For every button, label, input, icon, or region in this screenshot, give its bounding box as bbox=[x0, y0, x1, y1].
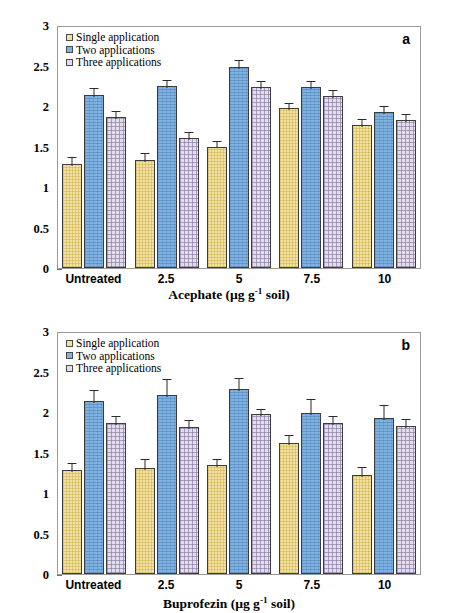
error-bar bbox=[166, 80, 167, 87]
bar[interactable] bbox=[62, 470, 82, 574]
bar-slot bbox=[207, 27, 227, 268]
y-tick-label: 0 bbox=[43, 262, 49, 277]
error-bar bbox=[383, 106, 384, 114]
y-tick-label: 1.5 bbox=[33, 446, 49, 461]
bar[interactable] bbox=[352, 475, 372, 574]
bar-slot bbox=[229, 27, 249, 268]
bar[interactable] bbox=[396, 426, 416, 574]
error-bar bbox=[188, 132, 189, 140]
error-bar-cap bbox=[401, 419, 410, 420]
bar[interactable] bbox=[352, 125, 372, 268]
bar-slot bbox=[396, 27, 416, 268]
bar-slot bbox=[301, 27, 321, 268]
bar-groups-a bbox=[58, 27, 420, 268]
error-bar-cap bbox=[285, 435, 294, 436]
bar-slot bbox=[352, 333, 372, 574]
error-bar-cap bbox=[184, 420, 193, 421]
error-bar bbox=[405, 114, 406, 122]
y-axis-ticks-a: 00.511.522.53 bbox=[0, 26, 57, 269]
bar[interactable] bbox=[229, 389, 249, 574]
bar[interactable] bbox=[251, 414, 271, 574]
error-bar bbox=[405, 419, 406, 428]
error-bar bbox=[144, 459, 145, 470]
error-bar-cap bbox=[257, 81, 266, 82]
x-tick-label: Untreated bbox=[57, 578, 130, 596]
error-bar bbox=[239, 378, 240, 391]
bar[interactable] bbox=[62, 164, 82, 268]
error-bar-cap bbox=[184, 132, 193, 133]
bar[interactable] bbox=[279, 443, 299, 574]
x-tick-label: 7.5 bbox=[275, 578, 348, 596]
error-bar-cap bbox=[162, 379, 171, 380]
bar-slot bbox=[179, 333, 199, 574]
error-bar bbox=[94, 390, 95, 404]
bar[interactable] bbox=[229, 67, 249, 268]
error-bar-cap bbox=[379, 106, 388, 107]
error-bar-cap bbox=[235, 378, 244, 379]
error-bar bbox=[239, 60, 240, 69]
y-tick-mark bbox=[57, 269, 62, 270]
y-tick-label: 0.5 bbox=[33, 527, 49, 542]
y-tick-label: 3 bbox=[43, 325, 49, 340]
y-tick-label: 2 bbox=[43, 100, 49, 115]
y-tick-label: 1 bbox=[43, 487, 49, 502]
bar[interactable] bbox=[396, 120, 416, 268]
bar[interactable] bbox=[135, 160, 155, 268]
error-bar bbox=[261, 409, 262, 416]
y-tick-label: 2 bbox=[43, 406, 49, 421]
error-bar-cap bbox=[401, 114, 410, 115]
bar-slot bbox=[352, 27, 372, 268]
error-bar bbox=[217, 141, 218, 148]
bar[interactable] bbox=[301, 413, 321, 574]
y-tick-label: 2.5 bbox=[33, 365, 49, 380]
bar[interactable] bbox=[106, 423, 126, 574]
error-bar-cap bbox=[213, 141, 222, 142]
error-bar bbox=[361, 119, 362, 126]
error-bar-cap bbox=[235, 60, 244, 61]
error-bar-cap bbox=[329, 416, 338, 417]
bar-slot bbox=[279, 333, 299, 574]
y-tick-label: 0 bbox=[43, 568, 49, 583]
bar-slot bbox=[106, 27, 126, 268]
bar-slot bbox=[135, 333, 155, 574]
panel-b: mg glucose g-1 soil 24 h-1 00.511.522.53… bbox=[0, 306, 458, 612]
bar[interactable] bbox=[84, 401, 104, 574]
bar[interactable] bbox=[207, 465, 227, 574]
bar[interactable] bbox=[207, 147, 227, 269]
error-bar bbox=[361, 467, 362, 478]
bar[interactable] bbox=[179, 427, 199, 574]
figure-container: mg glucose g-1 soil 24 h-1 00.511.522.53… bbox=[0, 0, 458, 613]
bar-slot bbox=[374, 27, 394, 268]
bar[interactable] bbox=[374, 418, 394, 574]
error-bar-cap bbox=[140, 459, 149, 460]
x-axis-title-b: Buprofezin (µg g-1 soil) bbox=[0, 596, 458, 612]
bar[interactable] bbox=[251, 87, 271, 268]
plot-area-a: Single applicationTwo applicationsThree … bbox=[57, 26, 421, 269]
plot-area-b: Single applicationTwo applicationsThree … bbox=[57, 332, 421, 575]
bar[interactable] bbox=[135, 468, 155, 574]
error-bar-cap bbox=[285, 103, 294, 104]
bar[interactable] bbox=[323, 96, 343, 268]
bar[interactable] bbox=[374, 112, 394, 268]
bar[interactable] bbox=[157, 86, 177, 268]
error-bar bbox=[116, 416, 117, 424]
bar[interactable] bbox=[179, 138, 199, 268]
y-tick-label: 0.5 bbox=[33, 221, 49, 236]
error-bar bbox=[333, 416, 334, 425]
error-bar-cap bbox=[162, 80, 171, 81]
bar[interactable] bbox=[301, 87, 321, 268]
error-bar-cap bbox=[329, 90, 338, 91]
y-tick-label: 1 bbox=[43, 181, 49, 196]
bar[interactable] bbox=[84, 95, 104, 268]
bar[interactable] bbox=[106, 117, 126, 268]
panel-a: mg glucose g-1 soil 24 h-1 00.511.522.53… bbox=[0, 0, 458, 306]
bar-slot bbox=[157, 27, 177, 268]
bar[interactable] bbox=[157, 395, 177, 574]
error-bar bbox=[188, 420, 189, 429]
bar[interactable] bbox=[279, 108, 299, 268]
bar-group bbox=[275, 27, 347, 268]
error-bar-cap bbox=[307, 399, 316, 400]
bar[interactable] bbox=[323, 423, 343, 574]
bar-slot bbox=[251, 333, 271, 574]
error-bar-cap bbox=[307, 81, 316, 82]
